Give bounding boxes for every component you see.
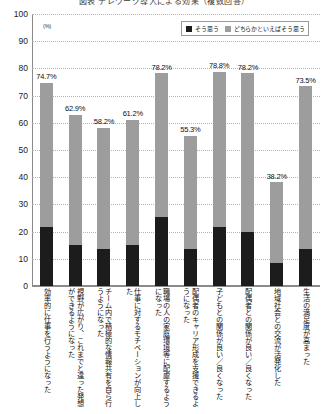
plot-area: 1009080706050403020100 (%) 74.7%62.9%58.… <box>32 14 320 286</box>
legend-label-0: そう思う <box>195 24 219 33</box>
x-axis-category-label-5: 配偶者のキャリア形成を支援できるようになった <box>182 288 199 410</box>
x-label-slot-9: 生活の満足度が高まった <box>291 288 320 412</box>
x-axis-category-label-3: 仕事に対するモチベーションが向上した <box>124 288 141 410</box>
x-axis-category-label-2: チーム内で積極的な情報共有を自ら行うようになった <box>96 288 113 410</box>
legend-swatch-dark-icon <box>186 26 192 32</box>
y-tick-label-10: 10 <box>19 254 28 264</box>
y-tick-label-100: 100 <box>14 9 28 19</box>
bar-3[interactable]: 61.2% <box>126 120 139 286</box>
page-title: 図表 テレワーク導入による効果（複数回答） <box>0 0 328 6</box>
bar-7[interactable]: 78.2% <box>241 73 254 286</box>
bar-segment-agree-somewhat-8 <box>270 182 283 263</box>
bar-segment-agree-6 <box>213 227 226 286</box>
chart-container: 図表 テレワーク導入による効果（複数回答） 100908070605040302… <box>0 0 328 414</box>
bar-value-label-5: 55.3% <box>180 125 200 134</box>
x-label-slot-4: 職場の人の家庭環境等に配慮するようになった <box>147 288 176 412</box>
bar-value-label-8: 38.2% <box>267 172 287 181</box>
bar-0[interactable]: 74.7% <box>40 83 53 286</box>
bar-slot-0: 74.7% <box>32 14 61 286</box>
chart-legend: そう思う どちらかといえばそう思う <box>181 21 309 36</box>
bar-slot-8: 38.2% <box>262 14 291 286</box>
bar-4[interactable]: 78.2% <box>155 73 168 286</box>
bar-segment-agree-1 <box>69 245 82 286</box>
gridline-0 <box>32 286 320 287</box>
x-axis-category-label-0: 効率的に仕事を行うようになった <box>42 288 50 410</box>
bar-value-label-3: 61.2% <box>123 109 143 118</box>
x-axis-category-label-4: 職場の人の家庭環境等に配慮するようになった <box>153 288 170 410</box>
bar-segment-agree-0 <box>40 227 53 286</box>
bar-6[interactable]: 78.8% <box>213 72 226 286</box>
bar-2[interactable]: 58.2% <box>97 128 110 286</box>
bar-segment-agree-4 <box>155 217 168 286</box>
bar-9[interactable]: 73.5% <box>299 86 312 286</box>
legend-entry-1[interactable]: どちらかといえばそう思う <box>225 24 305 33</box>
y-tick-label-40: 40 <box>19 172 28 182</box>
chart-title-strip: 図表 テレワーク導入による効果（複数回答） <box>0 0 328 9</box>
bar-slot-6: 78.8% <box>205 14 234 286</box>
bar-segment-agree-5 <box>184 249 197 286</box>
x-label-slot-1: 視野が広がり、これまでと違った発想ができるようになった <box>61 288 90 412</box>
x-label-slot-7: 配偶者との関係が良い／良くなった <box>234 288 263 412</box>
bar-segment-agree-somewhat-9 <box>299 86 312 249</box>
y-tick-label-70: 70 <box>19 91 28 101</box>
bar-slot-3: 61.2% <box>118 14 147 286</box>
y-tick-label-60: 60 <box>19 118 28 128</box>
bar-slot-1: 62.9% <box>61 14 90 286</box>
x-axis-category-label-6: 子どもとの関係が良い／良くなった <box>215 288 223 410</box>
bar-segment-agree-somewhat-2 <box>97 128 110 250</box>
bar-value-label-6: 78.8% <box>209 61 229 70</box>
x-axis-category-label-9: 生活の満足度が高まった <box>301 288 309 410</box>
x-label-slot-6: 子どもとの関係が良い／良くなった <box>205 288 234 412</box>
legend-entry-0[interactable]: そう思う <box>186 24 219 33</box>
bar-value-label-7: 78.2% <box>238 63 258 72</box>
bar-value-label-0: 74.7% <box>36 72 56 81</box>
x-axis-labels: 効率的に仕事を行うようになった視野が広がり、これまでと違った発想ができるようにな… <box>32 288 320 412</box>
bar-slot-9: 73.5% <box>291 14 320 286</box>
x-axis-category-label-7: 配偶者との関係が良い／良くなった <box>244 288 252 410</box>
x-label-slot-3: 仕事に対するモチベーションが向上した <box>118 288 147 412</box>
x-axis-category-label-8: 地域社会との交流が活発化した <box>273 288 281 410</box>
bar-8[interactable]: 38.2% <box>270 182 283 286</box>
bar-segment-agree-3 <box>126 245 139 286</box>
bar-series: 74.7%62.9%58.2%61.2%78.2%55.3%78.8%78.2%… <box>32 14 320 286</box>
bar-segment-agree-somewhat-1 <box>69 115 82 246</box>
x-label-slot-8: 地域社会との交流が活発化した <box>262 288 291 412</box>
bar-segment-agree-2 <box>97 249 110 286</box>
bar-slot-5: 55.3% <box>176 14 205 286</box>
y-tick-label-50: 50 <box>19 145 28 155</box>
bar-segment-agree-somewhat-5 <box>184 136 197 249</box>
x-label-slot-5: 配偶者のキャリア形成を支援できるようになった <box>176 288 205 412</box>
bar-segment-agree-7 <box>241 232 254 286</box>
x-label-slot-0: 効率的に仕事を行うようになった <box>32 288 61 412</box>
y-tick-label-30: 30 <box>19 199 28 209</box>
bar-segment-agree-somewhat-6 <box>213 72 226 227</box>
bar-value-label-1: 62.9% <box>65 104 85 113</box>
legend-label-1: どちらかといえばそう思う <box>234 24 305 33</box>
bar-segment-agree-9 <box>299 249 312 286</box>
bar-segment-agree-somewhat-0 <box>40 83 53 227</box>
bar-slot-7: 78.2% <box>234 14 263 286</box>
bar-segment-agree-somewhat-4 <box>155 73 168 217</box>
y-tick-label-90: 90 <box>19 36 28 46</box>
bar-slot-2: 58.2% <box>90 14 119 286</box>
bar-value-label-2: 58.2% <box>94 117 114 126</box>
bar-1[interactable]: 62.9% <box>69 115 82 286</box>
x-label-slot-2: チーム内で積極的な情報共有を自ら行うようになった <box>90 288 119 412</box>
y-tick-label-0: 0 <box>23 281 28 291</box>
y-tick-label-20: 20 <box>19 227 28 237</box>
legend-swatch-light-icon <box>225 26 231 32</box>
x-axis-category-label-1: 視野が広がり、これまでと違った発想ができるようになった <box>67 288 84 410</box>
bar-segment-agree-somewhat-3 <box>126 120 139 246</box>
bar-value-label-4: 78.2% <box>151 63 171 72</box>
bar-segment-agree-8 <box>270 263 283 286</box>
y-tick-label-80: 80 <box>19 63 28 73</box>
bar-value-label-9: 73.5% <box>295 76 315 85</box>
bar-5[interactable]: 55.3% <box>184 136 197 286</box>
bar-segment-agree-somewhat-7 <box>241 73 254 232</box>
bar-slot-4: 78.2% <box>147 14 176 286</box>
